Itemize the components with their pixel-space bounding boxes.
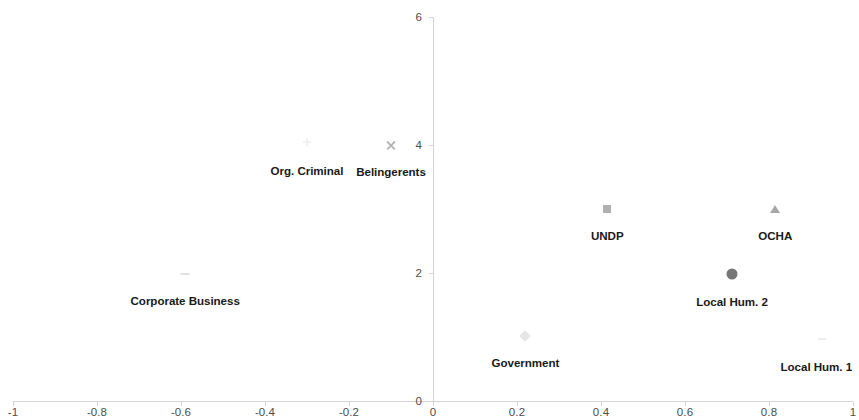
x-tick-label: -1 [8,406,18,418]
x-tick-label: 0.2 [509,406,525,418]
data-point-label: Org. Criminal [271,164,344,177]
data-point-label: Government [491,356,559,369]
data-point-diamond-marker [520,330,531,341]
y-tick-mark [429,17,433,18]
data-point-label: OCHA [758,229,792,242]
y-tick-mark [429,273,433,274]
data-point-circle-marker [727,269,738,280]
x-tick-label: 0 [430,406,437,418]
x-tick-label: -0.4 [255,406,275,418]
data-point-triangle-marker [770,205,780,213]
x-tick-label: 1 [850,406,857,418]
x-tick-label: 0.8 [761,406,777,418]
y-tick-label: 2 [400,267,422,279]
data-point-plus-marker [303,138,311,146]
y-tick-label: 6 [400,11,422,23]
scatter-chart: -1-0.8-0.6-0.4-0.200.20.40.60.81 0246 Or… [0,0,859,420]
data-point-dash-marker [181,273,190,275]
y-tick-mark [429,401,433,402]
data-point-x-marker [386,140,397,151]
data-point-label: Belingerents [356,165,426,178]
y-tick-label: 0 [400,395,422,407]
x-tick-label: -0.6 [171,406,191,418]
x-tick-label: -0.8 [87,406,107,418]
y-axis-line [433,17,434,402]
y-tick-label: 4 [400,139,422,151]
data-point-label: UNDP [591,229,624,242]
data-point-label: Local Hum. 2 [696,295,768,308]
data-point-label: Corporate Business [131,294,240,307]
x-tick-label: 0.6 [677,406,693,418]
y-tick-mark [429,145,433,146]
x-tick-label: 0.4 [593,406,609,418]
data-point-square-marker [603,205,611,213]
data-point-label: Local Hum. 1 [781,360,853,373]
data-point-dash-marker [818,338,826,340]
x-tick-label: -0.2 [339,406,359,418]
plot-area: -1-0.8-0.6-0.4-0.200.20.40.60.81 0246 Or… [0,0,859,420]
